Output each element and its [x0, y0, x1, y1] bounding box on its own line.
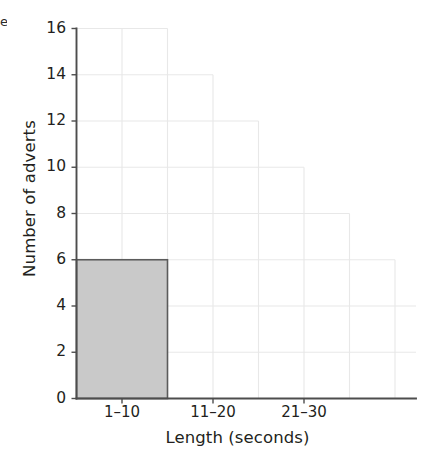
- y-tick-label: 4: [36, 298, 66, 314]
- y-tick-label: 8: [36, 206, 66, 222]
- y-tick-label: 14: [36, 67, 66, 83]
- histogram-figure: e Number of adverts Length (seconds) 024…: [0, 0, 432, 457]
- x-tick-label: 1–10: [77, 403, 167, 421]
- x-tick-label: 11–20: [168, 403, 258, 421]
- y-tick-label: 0: [36, 391, 66, 407]
- bar-series: [77, 260, 168, 399]
- y-tick-label: 6: [36, 252, 66, 268]
- x-axis-title: Length (seconds): [60, 428, 415, 447]
- histogram-bar: [77, 260, 168, 399]
- x-tick-label: 21–30: [259, 403, 349, 421]
- y-tick-label: 16: [36, 21, 66, 37]
- page-corner-mark: e: [0, 16, 7, 28]
- y-tick-label: 2: [36, 344, 66, 360]
- y-tick-label: 10: [36, 159, 66, 175]
- y-tick-label: 12: [36, 113, 66, 129]
